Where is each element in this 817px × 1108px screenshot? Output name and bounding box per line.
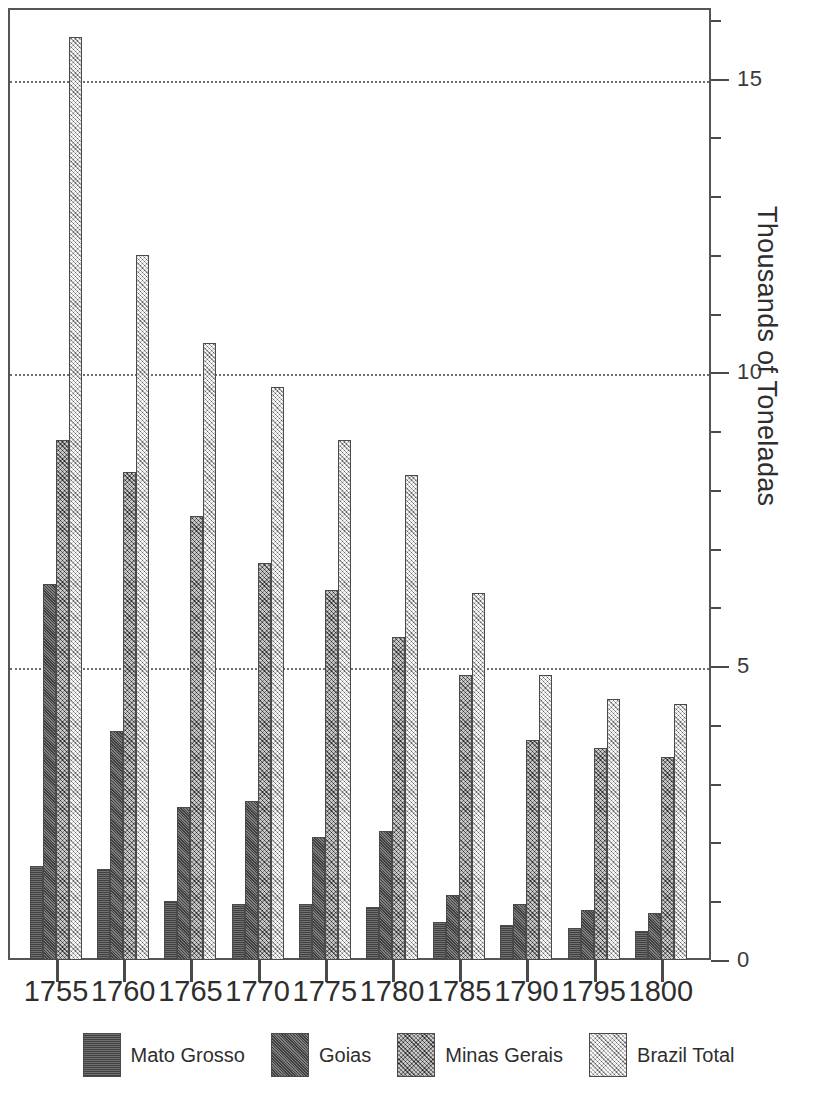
bar-group-1780	[366, 8, 418, 960]
x-axis-labels: 1755176017651770177517801785179017951800	[0, 975, 817, 1015]
legend-label: Mato Grosso	[131, 1044, 245, 1067]
bar-brazil-total-1800[interactable]	[674, 704, 687, 960]
y-tick-1	[711, 901, 721, 903]
bar-brazil-total-1795[interactable]	[607, 699, 620, 961]
bar-group-1775	[299, 8, 351, 960]
y-tick-7	[711, 549, 721, 551]
bar-group-1790	[500, 8, 552, 960]
x-axis-label-1790: 1790	[494, 975, 559, 1008]
bar-mato-grosso-1790[interactable]	[500, 925, 513, 960]
legend-swatch-icon-2	[397, 1033, 435, 1077]
y-axis: 051015 Thousands of Toneladas	[711, 0, 817, 1108]
bar-mato-grosso-1795[interactable]	[568, 928, 581, 960]
y-tick-10	[711, 372, 729, 374]
y-tick-label-15: 15	[737, 66, 762, 92]
bar-minas-gerais-1775[interactable]	[325, 590, 338, 960]
bar-mato-grosso-1755[interactable]	[30, 866, 43, 960]
y-axis-title: Thousands of Toneladas	[751, 206, 782, 766]
bars-layer	[8, 8, 711, 960]
y-tick-15	[711, 79, 729, 81]
legend-label: Brazil Total	[637, 1044, 734, 1067]
y-tick-5	[711, 666, 729, 668]
bar-goias-1790[interactable]	[513, 904, 526, 960]
bar-minas-gerais-1800[interactable]	[661, 757, 674, 960]
y-tick-3	[711, 784, 721, 786]
y-tick-8	[711, 490, 721, 492]
y-tick-label-5: 5	[737, 653, 750, 679]
bar-minas-gerais-1785[interactable]	[459, 675, 472, 960]
legend: Mato GrossoGoiasMinas GeraisBrazil Total	[0, 1024, 817, 1086]
bar-mato-grosso-1770[interactable]	[232, 904, 245, 960]
y-tick-16	[711, 20, 721, 22]
bar-goias-1780[interactable]	[379, 831, 392, 960]
bar-mato-grosso-1775[interactable]	[299, 904, 312, 960]
bar-minas-gerais-1755[interactable]	[56, 440, 69, 960]
bar-group-1785	[433, 8, 485, 960]
legend-item-mato-grosso[interactable]: Mato Grosso	[83, 1033, 271, 1077]
bar-goias-1765[interactable]	[177, 807, 190, 960]
bar-brazil-total-1780[interactable]	[405, 475, 418, 960]
bar-goias-1770[interactable]	[245, 801, 258, 960]
bar-goias-1775[interactable]	[312, 837, 325, 960]
bar-goias-1795[interactable]	[581, 910, 594, 960]
bar-minas-gerais-1780[interactable]	[392, 637, 405, 960]
bar-brazil-total-1770[interactable]	[271, 387, 284, 960]
bar-mato-grosso-1780[interactable]	[366, 907, 379, 960]
y-tick-11	[711, 314, 721, 316]
y-tick-13	[711, 196, 721, 198]
bar-minas-gerais-1760[interactable]	[123, 472, 136, 960]
y-tick-12	[711, 255, 721, 257]
x-axis-label-1755: 1755	[24, 975, 89, 1008]
x-axis-label-1795: 1795	[561, 975, 626, 1008]
bar-brazil-total-1765[interactable]	[203, 343, 216, 960]
bar-brazil-total-1785[interactable]	[472, 593, 485, 960]
bar-group-1795	[568, 8, 620, 960]
bar-group-1760	[97, 8, 149, 960]
x-axis-label-1785: 1785	[427, 975, 492, 1008]
y-tick-2	[711, 842, 721, 844]
bar-brazil-total-1775[interactable]	[338, 440, 351, 960]
bar-mato-grosso-1785[interactable]	[433, 922, 446, 960]
y-tick-4	[711, 725, 721, 727]
legend-swatch-icon-0	[83, 1033, 121, 1077]
bar-group-1800	[635, 8, 687, 960]
bar-minas-gerais-1795[interactable]	[594, 748, 607, 960]
y-tick-9	[711, 431, 721, 433]
legend-swatch-icon-1	[271, 1033, 309, 1077]
y-tick-14	[711, 137, 721, 139]
bar-mato-grosso-1760[interactable]	[97, 869, 110, 960]
bar-group-1755	[30, 8, 82, 960]
bar-brazil-total-1790[interactable]	[539, 675, 552, 960]
bar-brazil-total-1760[interactable]	[136, 255, 149, 960]
bar-goias-1760[interactable]	[110, 731, 123, 960]
bar-minas-gerais-1790[interactable]	[526, 740, 539, 960]
x-axis-label-1775: 1775	[293, 975, 358, 1008]
legend-item-brazil-total[interactable]: Brazil Total	[589, 1033, 734, 1077]
x-axis-label-1780: 1780	[360, 975, 425, 1008]
legend-swatch-icon-3	[589, 1033, 627, 1077]
x-axis-label-1800: 1800	[629, 975, 694, 1008]
y-tick-0	[711, 960, 729, 962]
legend-item-goias[interactable]: Goias	[271, 1033, 397, 1077]
bar-goias-1785[interactable]	[446, 895, 459, 960]
bar-brazil-total-1755[interactable]	[69, 37, 82, 960]
bar-goias-1800[interactable]	[648, 913, 661, 960]
legend-label: Minas Gerais	[445, 1044, 563, 1067]
y-tick-6	[711, 607, 721, 609]
bar-minas-gerais-1765[interactable]	[190, 516, 203, 960]
x-axis-label-1765: 1765	[158, 975, 223, 1008]
legend-label: Goias	[319, 1044, 371, 1067]
bar-minas-gerais-1770[interactable]	[258, 563, 271, 960]
x-axis-label-1770: 1770	[225, 975, 290, 1008]
bar-goias-1755[interactable]	[43, 584, 56, 960]
y-tick-label-0: 0	[737, 947, 750, 973]
x-axis-label-1760: 1760	[91, 975, 156, 1008]
bar-group-1765	[164, 8, 216, 960]
bar-mato-grosso-1800[interactable]	[635, 931, 648, 960]
bar-mato-grosso-1765[interactable]	[164, 901, 177, 960]
bar-group-1770	[232, 8, 284, 960]
legend-item-minas-gerais[interactable]: Minas Gerais	[397, 1033, 589, 1077]
